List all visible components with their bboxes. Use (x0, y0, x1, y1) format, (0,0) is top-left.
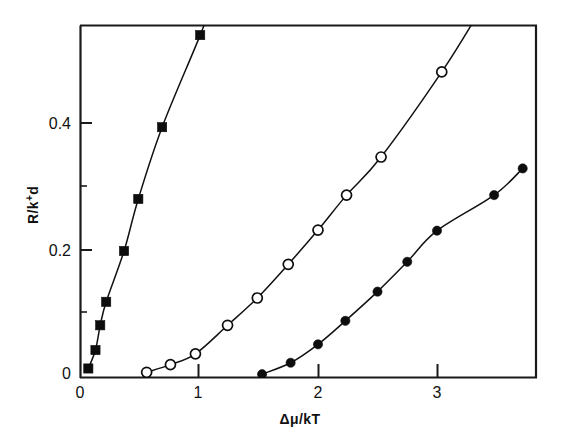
y-tick-label-0.2: 0.2 (49, 242, 71, 259)
x-tick-label-2: 2 (314, 384, 323, 401)
data-point (342, 190, 352, 200)
data-point (313, 225, 323, 235)
data-point (313, 340, 322, 349)
data-point (341, 316, 350, 325)
curve-filled-circles (262, 168, 523, 374)
curve-filled-squares (88, 0, 219, 368)
y-axis-ticks (80, 123, 92, 312)
data-point (286, 358, 295, 367)
x-axis-title: Δμ/kT (280, 411, 321, 427)
data-point (158, 123, 167, 132)
data-point (437, 67, 447, 77)
chart-svg: 0.4 0.2 0 0 1 2 3 Δμ/kT R/k+d (0, 0, 565, 441)
data-series-layer (84, 0, 528, 379)
y-tick-label-0.4: 0.4 (49, 115, 71, 132)
data-point (96, 321, 105, 330)
x-tick-label-1: 1 (194, 384, 203, 401)
data-point (490, 191, 499, 200)
series-filled-squares (84, 0, 220, 373)
curve-open-circles (147, 13, 479, 372)
data-point (91, 345, 100, 354)
data-point (373, 287, 382, 296)
x-tick-label-3: 3 (433, 384, 442, 401)
data-point (119, 246, 128, 255)
data-point (257, 370, 266, 379)
figure-container: 0.4 0.2 0 0 1 2 3 Δμ/kT R/k+d (0, 0, 565, 441)
series-open-circles (142, 13, 479, 377)
x-tick-label-0: 0 (76, 384, 85, 401)
y-tick-label-0: 0 (62, 365, 71, 382)
data-point (518, 164, 527, 173)
data-point (223, 320, 233, 330)
data-point (432, 226, 441, 235)
data-point (142, 367, 152, 377)
plot-frame (80, 26, 537, 379)
data-point (196, 31, 205, 40)
data-point (134, 194, 143, 203)
data-point (84, 364, 93, 373)
y-axis-title-main: R/k (25, 201, 41, 224)
data-point (403, 257, 412, 266)
data-point (283, 259, 293, 269)
series-filled-circles (257, 164, 527, 379)
data-point (376, 152, 386, 162)
data-point (102, 297, 111, 306)
x-axis-ticks (199, 364, 438, 378)
y-axis-title: R/k+d (24, 186, 41, 224)
data-point (252, 293, 262, 303)
y-axis-title-tail: d (25, 186, 41, 195)
data-point (165, 360, 175, 370)
data-point (190, 349, 200, 359)
